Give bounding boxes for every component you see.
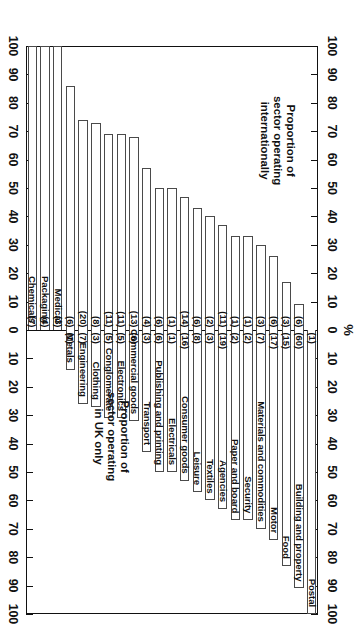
bar-row: (11)(5)Conglomerate <box>104 46 113 614</box>
axis-tick-label: 30 <box>325 238 339 252</box>
bar-category-label: Leisure <box>192 46 203 485</box>
axis-tick-label: 10 <box>6 295 20 309</box>
axis-tick <box>26 614 33 615</box>
axis-percent-symbol: % <box>341 324 356 336</box>
axis-tick-label: 60 <box>325 153 339 167</box>
axis-tick-label: 50 <box>325 181 339 195</box>
bar-category-label: Postal <box>306 46 317 607</box>
bar-row: (14)(16)Consumer goods <box>180 46 189 614</box>
axis-tick-label: 80 <box>325 96 339 110</box>
bar-row: (6)(1)Metals <box>66 46 75 614</box>
bar-category-label: Commercial goods <box>128 46 139 414</box>
axis-tick-label: 10 <box>6 352 20 366</box>
axis-tick-label: 80 <box>6 96 20 110</box>
bar-category-label: Security <box>243 46 254 513</box>
bar-row: (1)Postal <box>307 46 316 614</box>
bar-category-label: Medical <box>52 46 63 323</box>
axis-tick-label: 90 <box>325 579 339 593</box>
axis-tick-label: 100 <box>325 36 339 56</box>
axis-tick-label: 60 <box>6 494 20 508</box>
bar-row: (1)(2)Paper and board <box>231 46 240 614</box>
axis-tick <box>311 614 318 615</box>
bar-row: (1)(1)Electricals <box>167 46 176 614</box>
bar-row: (4)Packaging <box>40 46 49 614</box>
bar-category-label: Transport <box>141 46 152 445</box>
bar-row: (2)(3)Textiles <box>205 46 214 614</box>
bar-row: (1)(2)Security <box>243 46 252 614</box>
axis-tick-label: 100 <box>6 36 20 56</box>
bar-row: (8)(3)Clothing <box>91 46 100 614</box>
axis-tick-label: 40 <box>6 437 20 451</box>
bar-category-label: Textiles <box>205 46 216 493</box>
axis-tick-label: 100 <box>325 604 339 624</box>
axis-tick-label: 50 <box>325 465 339 479</box>
bar-row: (13)(6)Commercial goods <box>129 46 138 614</box>
axis-tick-label: 0 <box>325 327 339 334</box>
bar-row: (3)Medical <box>53 46 62 614</box>
bar-category-label: Clothing <box>90 46 101 400</box>
axis-tick-label: 70 <box>6 124 20 138</box>
bar-category-label: Electronics <box>116 46 127 411</box>
axis-tick-label: 80 <box>6 550 20 564</box>
bar-row: (6)(8)Leisure <box>193 46 202 614</box>
axis-tick-label: 10 <box>325 295 339 309</box>
bar-category-label: Agencies <box>217 46 228 502</box>
bar-category-label: Metals <box>65 46 76 363</box>
bar-category-label: Consumer goods <box>179 46 190 474</box>
axis-tick-label: 30 <box>325 408 339 422</box>
axis-tick-label: 10 <box>325 352 339 366</box>
axis-tick-label: 20 <box>325 266 339 280</box>
axis-tick-label: 90 <box>6 579 20 593</box>
axis-tick-label: 0 <box>6 327 20 334</box>
bar-row: (4)(3)Transport <box>142 46 151 614</box>
axis-tick-label: 30 <box>6 408 20 422</box>
bar-category-label: Paper and board <box>230 46 241 513</box>
axis-tick-label: 20 <box>6 380 20 394</box>
bar-row: (20)(7)Engineering <box>78 46 87 614</box>
annotation-uk-only: Proportion of sector operating in UK onl… <box>91 392 131 481</box>
axis-tick-label: 20 <box>6 266 20 280</box>
bar-category-label: Conglomerate <box>103 46 114 411</box>
bar-row: (11)(19)Agencies <box>218 46 227 614</box>
axis-percent-symbol: % <box>0 324 2 336</box>
axis-tick-label: 30 <box>6 238 20 252</box>
axis-tick-label: 60 <box>6 153 20 167</box>
axis-tick-label: 20 <box>325 380 339 394</box>
axis-tick-label: 50 <box>6 465 20 479</box>
axis-tick-label: 70 <box>325 522 339 536</box>
axis-tick-label: 90 <box>325 68 339 82</box>
bar-row: (6)(6)Publishing and printing <box>155 46 164 614</box>
bar-category-label: Publishing and printing <box>154 46 165 465</box>
axis-tick-label: 80 <box>325 550 339 564</box>
axis-tick-label: 40 <box>325 437 339 451</box>
bar-row: (7)Chemicals <box>28 46 37 614</box>
axis-tick-label: 50 <box>6 181 20 195</box>
annotation-international: Proportion of sector operating internati… <box>257 96 297 185</box>
bar-category-label: Packaging <box>40 46 51 323</box>
bar-row: (11)(5)Electronics <box>117 46 126 614</box>
axis-tick-label: 40 <box>325 210 339 224</box>
axis-tick-label: 70 <box>325 124 339 138</box>
bar-category-label: Chemicals <box>27 46 38 323</box>
bar-category-label: Engineering <box>78 46 89 397</box>
axis-tick-label: 60 <box>325 494 339 508</box>
axis-tick-label: 100 <box>6 604 20 624</box>
axis-tick-label: 40 <box>6 210 20 224</box>
axis-tick-label: 90 <box>6 68 20 82</box>
axis-tick-label: 70 <box>6 522 20 536</box>
bar-category-label: Electricals <box>167 46 178 465</box>
